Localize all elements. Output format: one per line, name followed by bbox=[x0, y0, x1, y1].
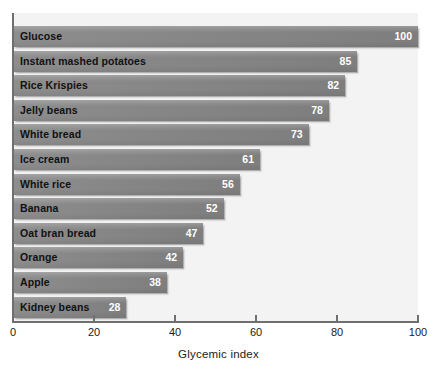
bar-row: Glucose100 bbox=[13, 26, 418, 47]
x-axis-tick bbox=[336, 315, 338, 321]
bar-category-label: Instant mashed potatoes bbox=[20, 51, 146, 72]
bar-value-label: 38 bbox=[137, 272, 161, 293]
plot-area: Glucose100Instant mashed potatoes85Rice … bbox=[13, 13, 418, 321]
bar-category-label: Banana bbox=[20, 198, 59, 219]
x-axis-tick-label: 0 bbox=[10, 326, 16, 338]
bar-value-label: 61 bbox=[230, 149, 254, 170]
bar-row: White bread73 bbox=[13, 124, 418, 145]
bar-row: Orange42 bbox=[13, 247, 418, 268]
bar-row: Kidney beans28 bbox=[13, 297, 418, 318]
x-axis-tick bbox=[417, 315, 419, 321]
bars-group: Glucose100Instant mashed potatoes85Rice … bbox=[13, 13, 418, 321]
bar-row: Ice cream61 bbox=[13, 149, 418, 170]
x-axis-tick-label: 20 bbox=[88, 326, 100, 338]
bar-row: Instant mashed potatoes85 bbox=[13, 51, 418, 72]
bar-row: White rice56 bbox=[13, 174, 418, 195]
x-axis-title: Glycemic index bbox=[0, 348, 437, 360]
bar-value-label: 78 bbox=[299, 100, 323, 121]
bar-value-label: 28 bbox=[96, 297, 120, 318]
bar-value-label: 85 bbox=[327, 51, 351, 72]
glycemic-index-bar-chart: Glucose100Instant mashed potatoes85Rice … bbox=[0, 0, 437, 372]
bar-category-label: Oat bran bread bbox=[20, 223, 96, 244]
bar-value-label: 42 bbox=[153, 247, 177, 268]
bar-category-label: Glucose bbox=[20, 26, 62, 47]
y-axis-line bbox=[12, 13, 14, 322]
bar-category-label: Apple bbox=[20, 272, 50, 293]
x-axis-tick bbox=[93, 315, 95, 321]
bar-row: Oat bran bread47 bbox=[13, 223, 418, 244]
x-axis-tick-label: 100 bbox=[409, 326, 427, 338]
bar-category-label: Rice Krispies bbox=[20, 75, 88, 96]
bar-value-label: 100 bbox=[388, 26, 412, 47]
bar-category-label: Jelly beans bbox=[20, 100, 78, 121]
bar-row: Rice Krispies82 bbox=[13, 75, 418, 96]
bar-row: Jelly beans78 bbox=[13, 100, 418, 121]
x-axis-tick bbox=[255, 315, 257, 321]
x-axis-line bbox=[12, 321, 419, 323]
bar-row: Banana52 bbox=[13, 198, 418, 219]
x-axis-tick bbox=[12, 315, 14, 321]
bar-category-label: White rice bbox=[20, 174, 71, 195]
bar-category-label: Kidney beans bbox=[20, 297, 89, 318]
x-axis-tick-label: 60 bbox=[250, 326, 262, 338]
bar bbox=[13, 26, 418, 47]
bar-value-label: 73 bbox=[279, 124, 303, 145]
bar-category-label: Orange bbox=[20, 247, 57, 268]
bar-value-label: 82 bbox=[315, 75, 339, 96]
bar-value-label: 47 bbox=[173, 223, 197, 244]
bar-value-label: 52 bbox=[194, 198, 218, 219]
x-axis-tick bbox=[174, 315, 176, 321]
x-axis-tick-label: 40 bbox=[169, 326, 181, 338]
bar-row: Apple38 bbox=[13, 272, 418, 293]
bar-category-label: White bread bbox=[20, 124, 81, 145]
bar-category-label: Ice cream bbox=[20, 149, 69, 170]
bar-value-label: 56 bbox=[210, 174, 234, 195]
x-axis-tick-label: 80 bbox=[331, 326, 343, 338]
